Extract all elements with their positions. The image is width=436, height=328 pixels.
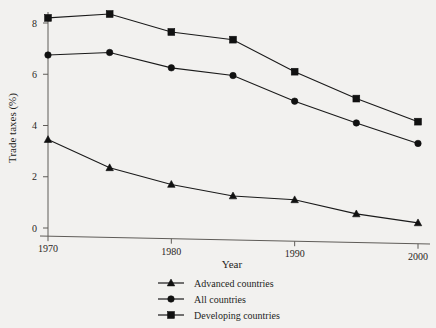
- legend-item[interactable]: All countries: [158, 294, 246, 305]
- data-point-square-2000: [415, 118, 422, 125]
- square-marker-icon: [168, 312, 175, 319]
- data-point-square-1995: [353, 95, 360, 102]
- data-point-square-1970: [45, 14, 52, 21]
- data-point-circle-1975: [106, 49, 112, 55]
- x-tick-label: 1970: [38, 243, 58, 254]
- y-tick-label: 2: [32, 171, 37, 182]
- data-point-circle-1980: [168, 65, 174, 71]
- series-line: [48, 140, 418, 223]
- data-point-circle-1990: [291, 98, 297, 104]
- data-point-triangle-1975: [106, 164, 113, 171]
- data-point-circle-1970: [45, 52, 51, 58]
- legend-label: All countries: [194, 294, 246, 305]
- data-point-square-1980: [168, 29, 175, 36]
- x-tick-label: 1980: [161, 246, 181, 257]
- legend-item[interactable]: Advanced countries: [158, 278, 274, 289]
- x-axis-title: Year: [222, 258, 243, 270]
- data-point-square-1985: [230, 36, 237, 43]
- series-line: [48, 52, 418, 143]
- data-point-square-1990: [291, 68, 298, 75]
- data-point-square-1975: [106, 11, 113, 18]
- series-advanced-countries: [44, 136, 421, 226]
- y-tick-label: 6: [32, 69, 37, 80]
- y-axis-ticks: 02468: [32, 18, 48, 234]
- series-developing-countries: [45, 11, 422, 125]
- legend-label: Advanced countries: [194, 278, 274, 289]
- data-point-circle-2000: [415, 140, 421, 146]
- x-tick-label: 2000: [408, 251, 428, 262]
- y-tick-label: 8: [32, 18, 37, 29]
- circle-marker-icon: [168, 296, 174, 302]
- data-point-circle-1995: [353, 120, 359, 126]
- x-axis-line: [40, 236, 430, 244]
- series-line: [48, 14, 418, 122]
- series-layer: [44, 11, 421, 226]
- data-point-circle-1985: [230, 72, 236, 78]
- y-axis-title: Trade taxes (%): [6, 93, 19, 163]
- legend-label: Developing countries: [194, 310, 280, 321]
- legend-item[interactable]: Developing countries: [158, 310, 280, 321]
- series-all-countries: [45, 49, 421, 146]
- y-tick-label: 0: [32, 223, 37, 234]
- chart-figure: 02468 1970198019902000 Trade taxes (%) Y…: [0, 0, 436, 328]
- x-tick-label: 1990: [285, 248, 305, 259]
- chart-legend: Advanced countriesAll countriesDevelopin…: [158, 278, 280, 321]
- line-chart: 02468 1970198019902000 Trade taxes (%) Y…: [0, 0, 436, 328]
- data-point-triangle-1970: [44, 136, 51, 143]
- y-tick-label: 4: [32, 120, 37, 131]
